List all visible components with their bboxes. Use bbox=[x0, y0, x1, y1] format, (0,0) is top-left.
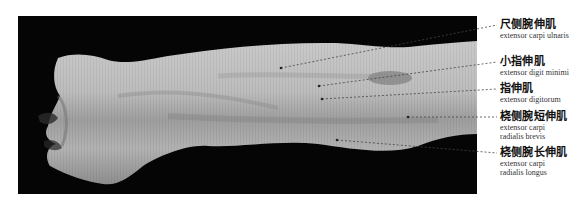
leader-line bbox=[281, 25, 497, 68]
leader-dot bbox=[318, 85, 321, 88]
muscle-name-en: radialis brevis bbox=[500, 132, 567, 141]
leader-line bbox=[319, 62, 497, 86]
muscle-label: 桡侧腕长伸肌extensor carpiradialis longus bbox=[500, 146, 567, 177]
muscle-name-en: extensor carpi ulnaris bbox=[500, 31, 569, 40]
muscle-label: 桡侧腕短伸肌extensor carpiradialis brevis bbox=[500, 110, 567, 141]
muscle-name-en: extensor digitorum bbox=[500, 95, 561, 104]
muscle-name-zh: 尺侧腕伸肌 bbox=[500, 18, 569, 31]
muscle-name-zh: 指伸肌 bbox=[500, 82, 561, 95]
muscle-label: 指伸肌extensor digitorum bbox=[500, 82, 561, 104]
muscle-label: 小指伸肌extensor digit minimi bbox=[500, 55, 569, 77]
leader-line bbox=[322, 89, 497, 99]
leader-dot bbox=[321, 98, 324, 101]
muscle-name-zh: 小指伸肌 bbox=[500, 55, 569, 68]
muscle-label: 尺侧腕伸肌extensor carpi ulnaris bbox=[500, 18, 569, 40]
muscle-name-en: extensor carpi bbox=[500, 123, 567, 132]
leader-line bbox=[337, 140, 497, 153]
muscle-name-en: radialis longus bbox=[500, 168, 567, 177]
leader-dot bbox=[407, 116, 410, 119]
muscle-name-en: extensor digit minimi bbox=[500, 68, 569, 77]
leader-lines bbox=[0, 0, 581, 207]
muscle-name-zh: 桡侧腕长伸肌 bbox=[500, 146, 567, 159]
muscle-name-en: extensor carpi bbox=[500, 159, 567, 168]
leader-dot bbox=[280, 67, 283, 70]
leader-dot bbox=[336, 139, 339, 142]
muscle-name-zh: 桡侧腕短伸肌 bbox=[500, 110, 567, 123]
